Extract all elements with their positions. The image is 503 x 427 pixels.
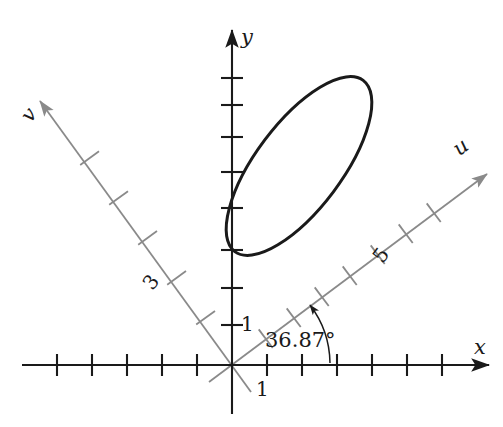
y-axis-label: y (241, 27, 253, 48)
ellipse-curve (200, 55, 397, 278)
x-unit-tick-label: 1 (256, 379, 269, 399)
v-axis (40, 101, 251, 392)
ellipse-figure: y x u v 1 1 5 3 36.87° (0, 0, 503, 427)
angle-label: 36.87° (265, 330, 336, 351)
u-axis (209, 174, 487, 382)
x-axis (22, 354, 489, 376)
figure-canvas (0, 0, 503, 427)
x-axis-label: x (474, 337, 486, 358)
u-axis-ticks (259, 203, 441, 348)
y-unit-tick-label: 1 (241, 314, 254, 334)
v-axis-ticks (80, 151, 215, 324)
